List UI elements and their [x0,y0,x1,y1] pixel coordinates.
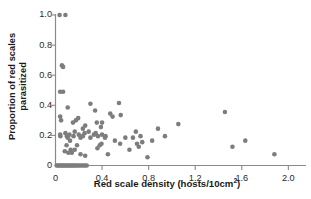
data-point [76,116,81,121]
data-point [95,120,100,125]
data-point [156,126,161,131]
data-point [113,138,118,143]
data-point [88,102,93,107]
scatter-plot-figure: Proportion of red scales parasitized 00.… [0,0,311,199]
data-point [230,144,235,149]
plot-area [0,0,311,199]
data-point [134,129,139,134]
data-point [58,134,63,139]
data-point [150,138,155,143]
data-point [67,132,72,137]
data-point [72,129,77,134]
data-point [57,13,62,18]
data-point [65,105,70,110]
data-point [136,144,141,149]
data-point [100,120,105,125]
data-point [63,13,68,18]
data-point [103,134,108,139]
data-point [106,152,111,157]
data-point [83,123,88,128]
data-point [145,155,150,160]
data-point [61,65,66,70]
data-point [117,101,122,106]
data-point [272,152,277,157]
data-point [223,110,228,115]
data-point [138,134,143,139]
axis-ticks [51,15,288,170]
data-point [123,135,128,140]
data-point [70,150,75,155]
data-points [54,13,276,168]
data-point [110,114,115,119]
data-point [88,135,93,140]
data-point [86,129,91,134]
data-point [71,134,76,139]
axis-lines [56,14,307,166]
data-point [99,125,104,130]
data-point [59,118,64,123]
data-point [93,108,98,113]
data-point [78,152,83,157]
data-point [82,131,87,136]
data-point [176,122,181,127]
data-point [140,140,145,145]
data-point [243,138,248,143]
data-point [118,141,123,146]
data-point [84,163,89,168]
data-point [64,143,69,148]
data-point [75,143,80,148]
data-point [118,113,123,118]
data-point [163,134,168,139]
data-point [96,134,101,139]
data-point [68,138,73,143]
data-point [61,89,66,94]
data-point [83,153,88,158]
data-point [131,135,136,140]
data-point [127,147,132,152]
data-point [99,141,104,146]
